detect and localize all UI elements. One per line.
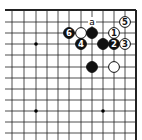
board-markers: a [88,17,96,27]
move-number: 1 [111,28,117,38]
white-stone-1: 1 [109,28,120,39]
move-number: 3 [122,39,128,49]
white-stone-disc [109,62,120,73]
star-point [101,109,105,113]
star-point [34,42,38,46]
black-stone-disc [87,28,98,39]
white-stone-disc [76,28,87,39]
black-stone-6: 6 [64,28,75,39]
black-stone-disc [87,62,98,73]
star-points [34,42,105,113]
move-number: 4 [78,39,84,49]
star-point [34,109,38,113]
black-stone [87,62,98,73]
white-stone-3: 3 [120,39,131,50]
white-stone [76,28,87,39]
black-stone-4: 4 [76,39,87,50]
point-label-a: a [89,17,95,27]
move-number: 5 [122,17,128,27]
black-stone-disc [98,39,109,50]
move-number: 6 [66,28,72,38]
move-number: 2 [111,39,117,49]
black-stone [98,39,109,50]
go-board-diagram: a 642315 [0,0,142,140]
white-stone-5: 5 [120,17,131,28]
stones-layer: 642315 [64,17,131,73]
black-stone [87,28,98,39]
black-stone-2: 2 [109,39,120,50]
white-stone [109,62,120,73]
